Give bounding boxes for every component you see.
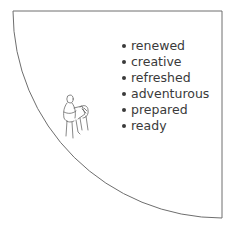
list-item-label: creative bbox=[131, 54, 182, 69]
bullet-icon bbox=[122, 92, 126, 96]
list-item-label: renewed bbox=[131, 38, 185, 53]
bullet-icon bbox=[122, 76, 126, 80]
list-item: prepared bbox=[122, 102, 209, 118]
list-item-label: prepared bbox=[131, 102, 188, 117]
list-item: adventurous bbox=[122, 86, 209, 102]
list-item: refreshed bbox=[122, 70, 209, 86]
bullet-icon bbox=[122, 44, 126, 48]
attribute-list: renewed creative refreshed adventurous p… bbox=[122, 38, 209, 134]
list-item-label: refreshed bbox=[131, 70, 191, 85]
list-item-label: adventurous bbox=[131, 86, 209, 101]
list-item-label: ready bbox=[131, 118, 167, 133]
list-item: renewed bbox=[122, 38, 209, 54]
bullet-icon bbox=[122, 108, 126, 112]
list-item: creative bbox=[122, 54, 209, 70]
list-item: ready bbox=[122, 118, 209, 134]
bullet-icon bbox=[122, 124, 126, 128]
sketch-person-reading-icon bbox=[58, 94, 96, 144]
bullet-icon bbox=[122, 60, 126, 64]
